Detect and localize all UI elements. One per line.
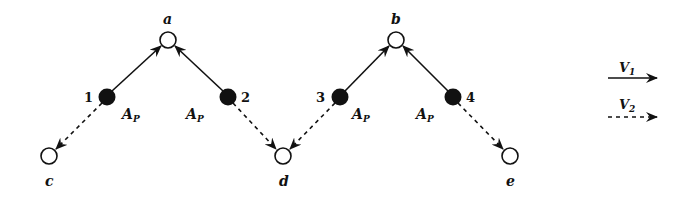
node-2 bbox=[220, 89, 237, 106]
node-1 bbox=[99, 89, 116, 106]
label-2: 2 bbox=[241, 90, 250, 105]
legend-v2: V2 bbox=[608, 97, 657, 117]
node-4 bbox=[445, 89, 462, 106]
v1-edges bbox=[112, 46, 448, 91]
edge-2-d bbox=[233, 103, 276, 149]
legend-v1-label: V1 bbox=[619, 60, 635, 77]
diagram-canvas: a b c d e 1 2 3 4 AP AP AP AP V1 V2 bbox=[0, 0, 691, 201]
annotation-2: AP bbox=[184, 106, 204, 124]
edge-3-d bbox=[290, 103, 335, 149]
label-4: 4 bbox=[466, 90, 475, 105]
node-e bbox=[502, 148, 518, 164]
edge-4-e bbox=[458, 103, 503, 149]
annotation-4: AP bbox=[414, 106, 434, 124]
edge-2-a bbox=[175, 46, 223, 91]
label-1: 1 bbox=[84, 90, 93, 105]
filled-nodes bbox=[99, 89, 462, 106]
label-e: e bbox=[506, 173, 515, 189]
node-c bbox=[41, 148, 57, 164]
edge-4-b bbox=[403, 46, 448, 91]
label-3: 3 bbox=[316, 90, 325, 105]
annotation-3: AP bbox=[350, 106, 370, 124]
edge-1-a bbox=[112, 46, 161, 91]
node-3 bbox=[332, 89, 349, 106]
node-a bbox=[160, 32, 176, 48]
node-d bbox=[275, 148, 291, 164]
legend: V1 V2 bbox=[608, 60, 657, 117]
label-b: b bbox=[391, 11, 401, 27]
legend-v1: V1 bbox=[608, 60, 657, 78]
edge-1-c bbox=[56, 103, 102, 149]
label-a: a bbox=[163, 11, 172, 27]
legend-v2-label: V2 bbox=[619, 97, 635, 114]
label-c: c bbox=[45, 173, 54, 189]
label-d: d bbox=[279, 173, 289, 189]
node-b bbox=[388, 32, 404, 48]
annotation-1: AP bbox=[120, 106, 140, 124]
edge-3-b bbox=[345, 46, 389, 91]
